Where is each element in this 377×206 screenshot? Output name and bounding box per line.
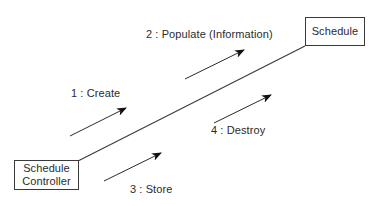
message-arrow-1-create[interactable] [70,108,126,136]
message-label-1-create: 1 : Create [71,87,120,100]
object-name-line-1: Schedule [23,162,70,175]
message-arrow-4-destroy[interactable] [214,95,271,123]
message-arrow-2-populate[interactable] [185,50,244,79]
message-label-2-populate: 2 : Populate (Information) [146,28,273,41]
association-link [78,46,305,161]
object-box-schedule[interactable]: Schedule [305,17,365,46]
message-label-4-destroy: 4 : Destroy [211,124,265,137]
uml-collaboration-diagram: Schedule Controller Schedule 1 : Create … [0,0,377,206]
message-arrow-3-store[interactable] [104,153,161,181]
object-name-line-1: Schedule [312,25,359,38]
object-name-line-2: Controller [22,175,71,188]
message-label-3-store: 3 : Store [130,183,172,196]
object-box-schedule-controller[interactable]: Schedule Controller [14,160,79,190]
